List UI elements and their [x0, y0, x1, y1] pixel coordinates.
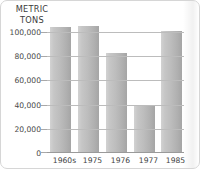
- y-tick-100000: [41, 32, 47, 33]
- bar-1976: [106, 53, 127, 153]
- gridline-100000: [47, 32, 184, 33]
- y-tick-80000: [41, 56, 47, 57]
- y-tick-0: [41, 152, 47, 153]
- gridline-40000: [47, 105, 184, 106]
- x-axis-label-1985: 1985: [154, 156, 197, 165]
- gridline-60000: [47, 80, 184, 81]
- y-axis-label-60000: 60,000: [1, 76, 41, 85]
- gridline-80000: [47, 56, 184, 57]
- y-axis-label-100000: 100,000: [1, 28, 41, 37]
- y-axis-label-20000: 20,000: [1, 125, 41, 134]
- chart-title-line-2: TONS: [5, 15, 59, 26]
- plot-area: [47, 32, 184, 153]
- bar-1975: [78, 26, 99, 153]
- gridline-20000: [47, 129, 184, 130]
- y-tick-40000: [41, 105, 47, 106]
- y-tick-60000: [41, 80, 47, 81]
- y-axis-label-80000: 80,000: [1, 52, 41, 61]
- chart-title-line-1: METRIC: [5, 4, 59, 15]
- chart-figure: METRIC TONS 100,000 80,000 60,000 40,000…: [0, 0, 200, 169]
- bar-1985: [161, 31, 182, 153]
- y-axis-label-40000: 40,000: [1, 101, 41, 110]
- bar-1960s: [50, 27, 71, 153]
- chart-title: METRIC TONS: [5, 4, 59, 26]
- y-tick-20000: [41, 129, 47, 130]
- y-axis-label-0: 0: [1, 149, 41, 158]
- axis-baseline: [47, 152, 184, 153]
